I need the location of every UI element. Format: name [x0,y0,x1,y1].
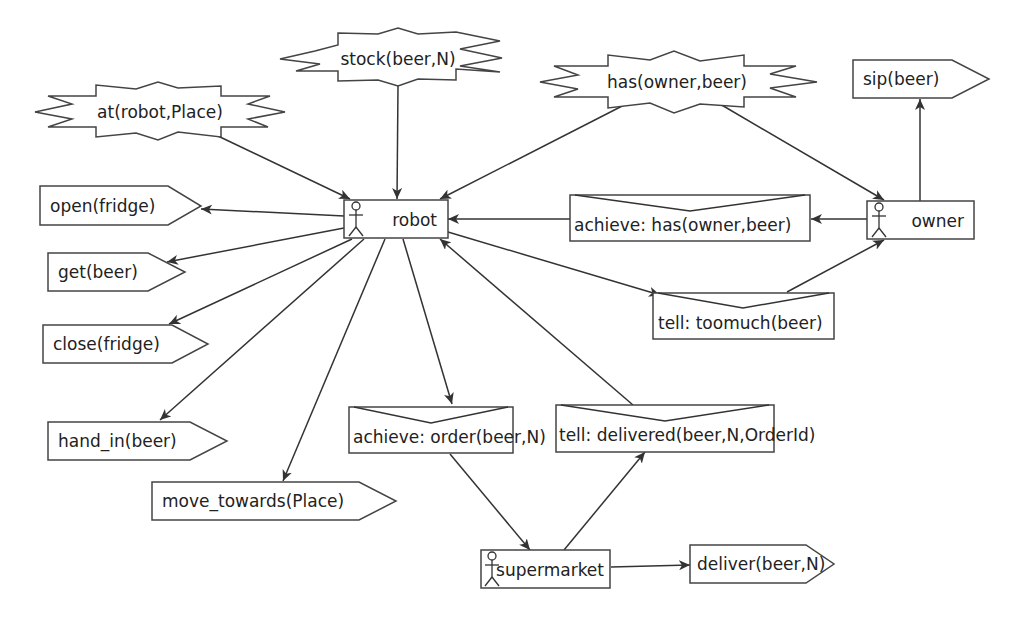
action-label: hand_in(beer) [58,431,177,452]
edge-has-to-robot [440,102,630,199]
edge-robot-to-get [167,228,344,262]
message-label: tell: toomuch(beer) [658,313,823,333]
action-label: open(fridge) [50,196,155,216]
agent-label: owner [911,211,964,231]
action-hand-in[interactable]: hand_in(beer) [48,422,227,460]
diagram-canvas: stock(beer,N) at(robot,Place) has(owner,… [0,0,1028,623]
action-move-towards[interactable]: move_towards(Place) [152,482,396,520]
percept-label: has(owner,beer) [607,72,747,92]
edge-robot-to-close [169,239,352,324]
message-achieve-order[interactable]: achieve: order(beer,N) [349,407,546,453]
action-open[interactable]: open(fridge) [40,186,201,225]
action-label: deliver(beer,N) [697,554,825,574]
action-deliver[interactable]: deliver(beer,N) [690,545,834,583]
action-sip[interactable]: sip(beer) [853,60,989,98]
action-label: get(beer) [58,262,138,282]
message-tell-toomuch[interactable]: tell: toomuch(beer) [653,293,834,339]
percept-has[interactable]: has(owner,beer) [540,51,817,113]
edge-tell-delivered-to-robot [440,239,633,405]
action-label: move_towards(Place) [162,491,344,512]
message-achieve-has[interactable]: achieve: has(owner,beer) [570,195,810,241]
agent-supermarket[interactable]: supermarket [481,550,610,588]
agent-label: robot [392,210,437,230]
message-label: achieve: has(owner,beer) [574,215,791,235]
percept-at[interactable]: at(robot,Place) [35,82,285,140]
action-label: sip(beer) [863,69,939,89]
action-get[interactable]: get(beer) [48,253,185,291]
action-close[interactable]: close(fridge) [43,325,208,363]
edge-supermarket-to-tell-delivered [564,452,645,550]
percept-label: stock(beer,N) [340,49,455,69]
action-label: close(fridge) [53,334,160,354]
edge-tell-toomuch-to-owner [787,240,884,292]
agent-label: supermarket [496,560,604,580]
percept-stock[interactable]: stock(beer,N) [280,28,502,86]
edge-has-to-owner [720,104,884,200]
agent-owner[interactable]: owner [867,201,974,239]
agent-robot[interactable]: robot [344,200,448,238]
edge-robot-to-hand-in [160,239,364,420]
message-tell-delivered[interactable]: tell: delivered(beer,N,OrderId) [556,405,815,452]
message-label: tell: delivered(beer,N,OrderId) [559,425,815,445]
percept-label: at(robot,Place) [97,102,223,122]
edge-achieve-order-to-supermarket [450,454,530,550]
edge-at-to-robot [218,136,350,199]
message-label: achieve: order(beer,N) [353,427,546,447]
edge-robot-to-open [201,209,344,216]
edge-robot-to-achieve-order [403,239,452,404]
edge-stock-to-robot [397,86,398,199]
edge-supermarket-to-deliver [611,565,690,567]
